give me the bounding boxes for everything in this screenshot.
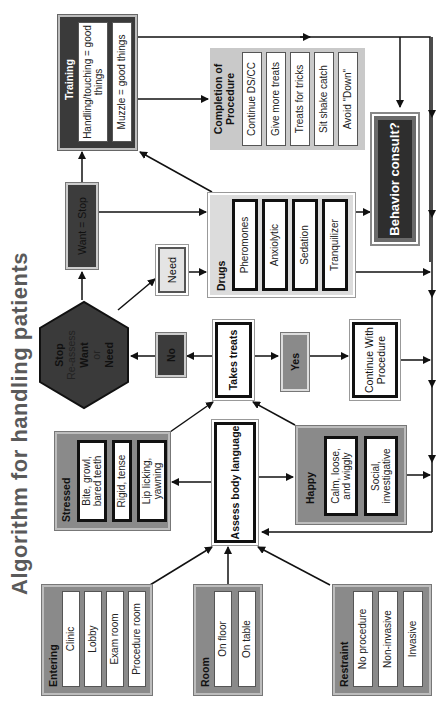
drugs-header: Drugs — [215, 261, 227, 291]
no-box: No — [156, 333, 186, 377]
need-box: Need — [158, 247, 186, 293]
completion-item: Sit shake catch — [314, 52, 334, 146]
completion-item: Continue DS/CC — [242, 52, 262, 146]
entering-header: Entering — [47, 644, 59, 687]
stressed-item: Lip licking, yawning — [137, 440, 167, 522]
completion-group: Completion of Procedure Continue DS/CC G… — [210, 48, 365, 150]
need-text: Need — [103, 342, 116, 368]
assess-body-language-box: Assess body language — [214, 422, 256, 543]
training-header: Training — [63, 59, 75, 100]
training-group: Training Handling/touching = good things… — [58, 15, 137, 150]
yes-box: Yes — [281, 333, 309, 391]
restraint-item: Non-invasive — [378, 591, 398, 687]
stressed-group: Stressed Bite, growl, bared teeth Rigid,… — [55, 432, 170, 530]
restraint-header: Restraint — [338, 641, 350, 687]
takes-treats-box: Takes treats — [215, 322, 252, 398]
drugs-item: Pheromones — [232, 199, 258, 291]
drugs-item: Anxiolytic — [262, 199, 288, 291]
continue-procedure-box: Continue With Procedure — [352, 322, 398, 398]
room-item: On table — [238, 591, 256, 687]
stressed-header: Stressed — [60, 478, 72, 522]
completion-item: Give more treats — [266, 52, 286, 146]
stop-text: Stop — [53, 343, 66, 366]
entering-item: Procedure room — [128, 591, 146, 687]
room-group: Room On floor On table — [194, 585, 262, 695]
reassess-text: Re-assess — [65, 330, 78, 380]
completion-item: Avoid "Down" — [338, 52, 358, 146]
happy-item: Calm, loose, and wiggly — [324, 436, 358, 516]
flowchart-canvas: Algorithm for handling patients Entering… — [0, 0, 445, 717]
drugs-item: Sedation — [292, 199, 318, 291]
drugs-item: Tranquilizer — [322, 199, 348, 291]
completion-header: Completion of Procedure — [213, 52, 236, 146]
or-text: or — [90, 350, 103, 359]
want-stop-box: Want = Stop — [66, 183, 98, 269]
happy-header: Happy — [304, 472, 316, 504]
stressed-item: Rigid, tense — [112, 440, 132, 522]
room-header: Room — [199, 657, 211, 687]
entering-item: Exam room — [106, 591, 124, 687]
restraint-item: Invasive — [403, 591, 423, 687]
happy-group: Happy Calm, loose, and wiggly Social, in… — [296, 426, 406, 524]
stressed-item: Bite, growl, bared teeth — [77, 440, 107, 522]
entering-item: Clinic — [62, 591, 80, 687]
restraint-item: No procedure — [353, 591, 373, 687]
restraint-group: Restraint No procedure Non-invasive Inva… — [333, 585, 431, 695]
want-text: Want — [78, 342, 91, 367]
training-item: Handling/touching = good things — [78, 22, 108, 142]
drugs-group: Drugs Pheromones Anxiolytic Sedation Tra… — [208, 193, 355, 297]
training-item: Muzzle = good things — [112, 22, 132, 142]
happy-item: Social, investigative — [364, 436, 398, 516]
entering-item: Lobby — [84, 591, 102, 687]
room-item: On floor — [214, 591, 232, 687]
behavior-consult-box: Behavior consult? — [374, 116, 416, 242]
stop-reassess-text: Stop Re-assess Want or Need — [44, 313, 124, 397]
entering-group: Entering Clinic Lobby Exam room Procedur… — [42, 585, 152, 695]
page-title: Algorithm for handling patients — [7, 252, 33, 595]
completion-item: Treats for tricks — [290, 52, 310, 146]
